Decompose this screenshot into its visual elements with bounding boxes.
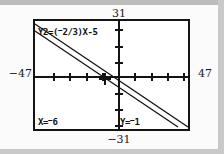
trace-y-value: 1 xyxy=(134,117,139,127)
window-xmax-label: 47 xyxy=(198,68,220,79)
trace-x-prefix: X= xyxy=(38,117,48,127)
calculator-screenshot: 31 −31 −47 47 xyxy=(0,0,224,154)
window-ymax-label: 31 xyxy=(96,8,142,19)
equation-suffix: 2/3)X-5 xyxy=(63,27,98,37)
line-y1 xyxy=(35,24,188,127)
equation-prefix: Y2=( xyxy=(38,27,58,37)
window-xmin-label: −47 xyxy=(6,68,32,79)
page-edge-bottom xyxy=(0,149,224,154)
graph-frame[interactable]: Y2=(−2/3)X-5 X=−6 Y=−1 xyxy=(33,19,190,131)
trace-x-value: 6 xyxy=(52,117,57,127)
window-ymin-label: −31 xyxy=(96,134,142,145)
trace-y-readout: Y=−1 xyxy=(120,116,140,127)
trace-x-readout: X=−6 xyxy=(38,116,58,127)
graph-plot xyxy=(35,21,188,129)
equation-label: Y2=(−2/3)X-5 xyxy=(38,26,98,37)
trace-y-prefix: Y= xyxy=(120,117,130,127)
